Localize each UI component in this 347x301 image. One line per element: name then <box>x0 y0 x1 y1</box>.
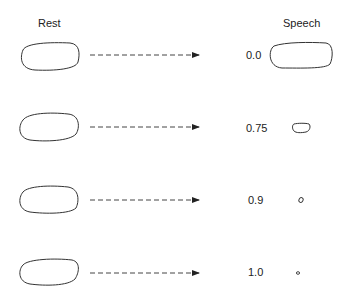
row-1 <box>21 42 332 70</box>
diagram-canvas <box>0 0 347 301</box>
row-1-value: 0.0 <box>246 49 261 61</box>
rest-mouth-shape <box>21 43 79 71</box>
speech-mouth-shape <box>270 42 332 68</box>
row-2-value: 0.75 <box>246 122 267 134</box>
rest-mouth-shape <box>20 113 79 141</box>
rest-mouth-shape <box>20 259 79 285</box>
row-4-value: 1.0 <box>248 266 263 278</box>
speech-mouth-shape <box>298 197 304 203</box>
speech-mouth-shape <box>293 123 311 132</box>
speech-mouth-shape <box>296 272 299 275</box>
row-3-value: 0.9 <box>248 194 263 206</box>
rest-mouth-shape <box>20 186 78 213</box>
